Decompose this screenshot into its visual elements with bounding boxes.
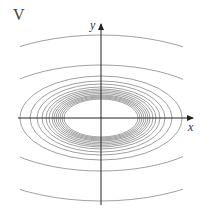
x-axis-label: x: [187, 120, 194, 134]
panel-label: V: [13, 6, 25, 23]
contour-diagram: V x y: [0, 0, 215, 223]
y-axis-label: y: [89, 18, 96, 32]
